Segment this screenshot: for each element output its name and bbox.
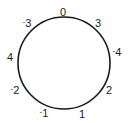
label-value: 1 xyxy=(42,107,48,119)
label-value: 0 xyxy=(60,6,66,18)
label-value: 3 xyxy=(95,17,101,29)
circle-label-upper-right: 3 xyxy=(95,18,101,29)
circle-outline xyxy=(18,17,110,109)
circle-label-bottom-left: -1 xyxy=(40,108,49,120)
circle-label-upper-left: -3 xyxy=(23,18,32,30)
circle-label-top: 0 xyxy=(60,7,66,18)
label-value: 4 xyxy=(115,46,121,58)
label-value: 1 xyxy=(79,108,85,120)
circle-label-lower-right: 2 xyxy=(106,85,112,96)
label-value: 2 xyxy=(106,84,112,96)
number-circle-diagram xyxy=(0,0,128,123)
circle-label-right: -4 xyxy=(113,47,122,59)
negative-sign: - xyxy=(40,107,43,116)
label-value: 4 xyxy=(7,51,13,63)
label-value: 2 xyxy=(13,84,19,96)
label-value: 3 xyxy=(25,17,31,29)
circle-label-bottom-right: 1 xyxy=(79,109,85,120)
negative-sign: - xyxy=(23,17,26,26)
negative-sign: - xyxy=(113,46,116,55)
circle-label-left: 4 xyxy=(7,52,13,63)
circle-label-lower-left: -2 xyxy=(11,85,20,97)
negative-sign: - xyxy=(11,84,14,93)
